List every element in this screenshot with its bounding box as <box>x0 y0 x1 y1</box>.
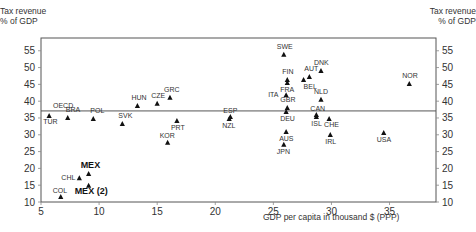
y-tick-label-left: 55 <box>24 45 36 56</box>
data-point-marker-icon <box>91 116 96 121</box>
data-point-marker-icon <box>381 130 386 135</box>
data-point-label: GBR <box>280 96 295 103</box>
data-point-label: AUT <box>304 65 319 72</box>
data-point-label: NOR <box>402 72 418 79</box>
data-point-label: ESP <box>223 107 237 114</box>
x-tick-label: 30 <box>326 206 338 217</box>
y-tick-label-right: 15 <box>442 180 454 191</box>
y-tick-label-left: 45 <box>24 79 36 90</box>
data-point-label: CHE <box>324 121 339 128</box>
data-point-label: JPN <box>277 148 290 155</box>
data-point-label: DEU <box>280 115 295 122</box>
data-point-marker-icon <box>285 105 290 110</box>
x-tick-label: 10 <box>94 206 106 217</box>
y-tick-label-left: 25 <box>24 146 36 157</box>
data-point-label: KOR <box>160 132 175 139</box>
data-point-label: FIN <box>282 68 293 75</box>
data-point-label: CHL <box>61 174 75 181</box>
data-point-marker-icon <box>318 97 323 102</box>
data-point-label: SVK <box>118 112 132 119</box>
data-point-label: PRT <box>171 124 186 131</box>
data-point-label: BRA <box>66 106 81 113</box>
x-tick-label: 35 <box>384 206 396 217</box>
data-point-marker-icon <box>65 115 70 120</box>
data-point-label: ISL <box>311 120 322 127</box>
data-point-marker-icon <box>281 142 286 147</box>
y-tick-label-left: 35 <box>24 112 36 123</box>
y-tick-label-left: 10 <box>24 197 36 208</box>
data-point-label: NZL <box>222 122 235 129</box>
data-point-label: ITA <box>268 91 279 98</box>
data-point-marker-icon <box>284 129 289 134</box>
data-point-label: MEX (2) <box>75 186 108 196</box>
plot-frame <box>41 38 436 202</box>
data-point-label: AUS <box>279 135 294 142</box>
y-tick-label-left: 15 <box>24 180 36 191</box>
x-tick-label: 15 <box>152 206 164 217</box>
x-tick-label: 20 <box>210 206 222 217</box>
data-point-marker-icon <box>174 118 179 123</box>
data-point-label: HUN <box>131 94 146 101</box>
y-tick-label-right: 30 <box>442 129 454 140</box>
data-point-label: IRL <box>325 138 336 145</box>
data-point-marker-icon <box>155 101 160 106</box>
y-tick-label-right: 35 <box>442 112 454 123</box>
y-tick-label-left: 30 <box>24 129 36 140</box>
y-tick-label-right: 55 <box>442 45 454 56</box>
data-point-marker-icon <box>58 194 63 199</box>
data-point-label: TUR <box>43 118 57 125</box>
data-point-label: CAN <box>310 105 325 112</box>
data-point-marker-icon <box>167 95 172 100</box>
data-point-label: COL <box>53 187 68 194</box>
data-point-label: GRC <box>164 86 180 93</box>
data-point-marker-icon <box>318 68 323 73</box>
data-point-marker-icon <box>281 52 286 57</box>
y-tick-label-right: 20 <box>442 163 454 174</box>
y-tick-label-right: 10 <box>442 197 454 208</box>
data-point-marker-icon <box>86 171 91 176</box>
data-point-label: SWE <box>277 43 293 50</box>
y-tick-label-right: 25 <box>442 146 454 157</box>
x-tick-label: 5 <box>38 206 44 217</box>
data-point-marker-icon <box>120 121 125 126</box>
x-tick-label: 25 <box>268 206 280 217</box>
data-point-marker-icon <box>328 132 333 137</box>
y-tick-label-right: 40 <box>442 96 454 107</box>
data-point-label: FRA <box>280 86 294 93</box>
data-point-label: POL <box>90 107 104 114</box>
y-tick-label-left: 40 <box>24 96 36 107</box>
y-tick-label-right: 50 <box>442 62 454 73</box>
y-tick-label-left: 20 <box>24 163 36 174</box>
data-point-label: NLD <box>314 88 328 95</box>
data-point-marker-icon <box>135 103 140 108</box>
y-tick-label-right: 45 <box>442 79 454 90</box>
data-point-marker-icon <box>77 175 82 180</box>
data-point-marker-icon <box>301 77 306 82</box>
data-point-label: CZE <box>151 92 165 99</box>
data-point-marker-icon <box>165 140 170 145</box>
y-tick-label-left: 50 <box>24 62 36 73</box>
scatter-chart: 1010151520202525303035354040454550505555… <box>0 0 476 232</box>
data-point-marker-icon <box>407 81 412 86</box>
data-point-label: USA <box>377 136 392 143</box>
data-point-label: MEX <box>81 160 101 170</box>
data-point-marker-icon <box>307 74 312 79</box>
